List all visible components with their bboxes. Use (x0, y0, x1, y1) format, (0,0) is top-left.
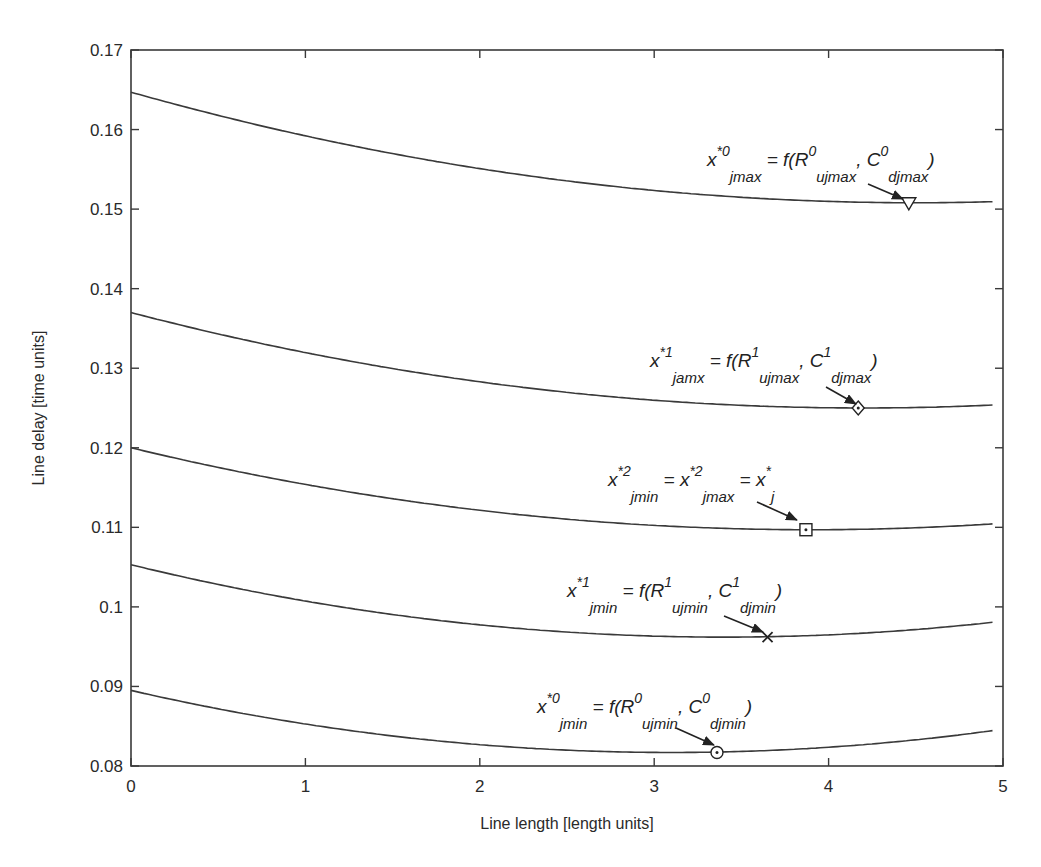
x-tick-label: 4 (824, 777, 833, 796)
annotation-arrow-a2 (826, 387, 856, 404)
marker-square-dot-icon (800, 524, 812, 536)
series-line-curve-2 (131, 448, 993, 530)
annotation-arrow-a5 (676, 728, 714, 745)
annotation-label-a5: x*0jmin = f(R0ujmin, C0djmin) (536, 690, 752, 732)
x-tick-label: 3 (649, 777, 658, 796)
x-axis-label: Line length [length units] (480, 815, 653, 832)
line-delay-chart: x*0jmax = f(R0ujmax, C0djmax)x*1jamx = f… (0, 0, 1041, 867)
annotation-arrow-a1 (868, 184, 903, 199)
y-tick-label: 0.14 (90, 280, 123, 299)
y-tick-label: 0.15 (90, 200, 123, 219)
y-axis-label: Line delay [time units] (30, 331, 47, 486)
series-line-curve-0-max (131, 92, 993, 203)
annotation-arrow-a3 (757, 502, 797, 520)
annotation-label-a1: x*0jmax = f(R0ujmax, C0djmax) (706, 143, 935, 185)
marker-triangle-down-icon (902, 198, 916, 210)
marker-circle-dot-icon (711, 746, 723, 758)
y-tick-label: 0.12 (90, 439, 123, 458)
annotation-label-a2: x*1jamx = f(R1ujmax, C1djmax) (649, 344, 878, 386)
x-tick-label: 2 (475, 777, 484, 796)
annotation-label-a3: x*2jmin = x*2jmax = x*j (607, 463, 775, 505)
x-tick-label: 1 (301, 777, 310, 796)
annotation-arrow-a4 (724, 616, 763, 632)
series-line-curve-1-min (131, 565, 993, 637)
data-curves (131, 92, 993, 752)
y-tick-label: 0.17 (90, 41, 123, 60)
y-tick-label: 0.13 (90, 359, 123, 378)
annotation-label-a4: x*1jmin = f(R1ujmin, C1djmin) (566, 574, 782, 616)
x-tick-label: 5 (998, 777, 1007, 796)
y-tick-label: 0.11 (91, 518, 123, 537)
annotations: x*0jmax = f(R0ujmax, C0djmax)x*1jamx = f… (536, 143, 935, 745)
y-tick-label: 0.16 (90, 121, 123, 140)
y-tick-label: 0.1 (99, 598, 123, 617)
x-tick-label: 0 (126, 777, 135, 796)
y-tick-label: 0.09 (90, 677, 123, 696)
series-line-curve-1-max (131, 313, 993, 409)
y-tick-label: 0.08 (90, 757, 123, 776)
